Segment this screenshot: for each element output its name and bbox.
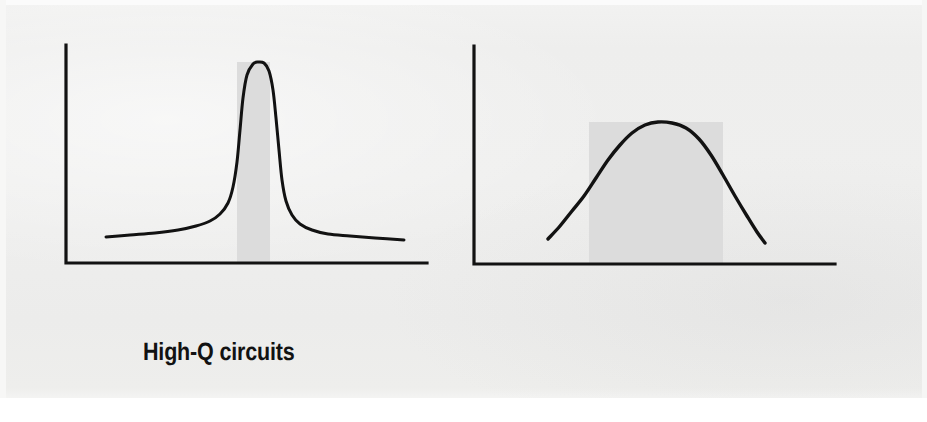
panel-low-q: Low-Q circuits produce a wide bandwidth. bbox=[463, 0, 927, 422]
high-q-plot bbox=[0, 0, 463, 290]
low-q-plot bbox=[463, 0, 927, 290]
panel-high-q: High-Q circuits produce a narrow bandwid… bbox=[0, 0, 463, 422]
high-q-band-group bbox=[237, 62, 270, 263]
high-q-bandwidth-band bbox=[237, 62, 270, 263]
caption-high-q-line-1: High-Q circuits bbox=[143, 337, 321, 367]
figure-root: High-Q circuits produce a narrow bandwid… bbox=[0, 0, 927, 422]
caption-high-q: High-Q circuits produce a narrow bandwid… bbox=[143, 277, 321, 422]
